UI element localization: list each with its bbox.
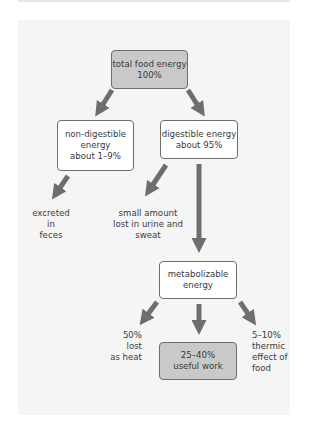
output-feces: excreted in feces [28, 208, 74, 241]
arrow-digestible-to-urine [150, 165, 166, 189]
node-metabolizable-energy: metabolizable energy [159, 261, 237, 299]
output-urine-sweat: small amount lost in urine and sweat [102, 208, 194, 241]
output-heat: 50% lost as heat [108, 330, 142, 363]
node-total-food-energy: total food energy 100% [111, 50, 188, 89]
node-useful-work: 25–40% useful work [159, 342, 237, 380]
node-digestible-energy: digestible energy about 95% [160, 120, 238, 159]
arrow-metabolizable-to-thermic [240, 302, 251, 318]
arrow-nondigestible-to-feces [57, 176, 68, 192]
arrow-metabolizable-to-heat [145, 302, 157, 318]
arrow-total-to-digestible [188, 90, 200, 109]
arrow-total-to-nondigestible [100, 90, 112, 109]
output-thermic-effect: 5–10% thermic effect of food [252, 330, 292, 374]
node-non-digestible-energy: non-digestible energy about 1–9% [57, 120, 134, 171]
